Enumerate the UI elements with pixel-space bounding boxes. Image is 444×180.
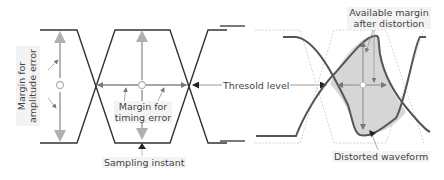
amplitude-margin-label: Margin for amplitude error: [16, 46, 40, 126]
distorted-waveform-label: Distorted waveform: [332, 151, 430, 162]
sampling-instant-label: Sampling instant: [102, 157, 186, 168]
timing-margin-line2: timing error: [114, 112, 172, 123]
available-margin-line1: Available margin: [347, 7, 431, 18]
amplitude-margin-line1: Margin for: [16, 46, 27, 126]
sampling-instant-marker: [138, 143, 146, 149]
available-margin-line2: after distortion: [347, 18, 431, 29]
timing-margin-label: Margin for timing error: [114, 101, 172, 123]
ideal-eye-waveform: [40, 30, 227, 143]
available-margin-label: Available margin after distortion: [347, 7, 431, 29]
timing-margin-line1: Margin for: [114, 101, 172, 112]
threshold-level-label: Thresold level: [222, 80, 290, 91]
amplitude-margin-arrow: [48, 33, 64, 140]
amplitude-margin-line2: amplitude error: [27, 46, 38, 126]
